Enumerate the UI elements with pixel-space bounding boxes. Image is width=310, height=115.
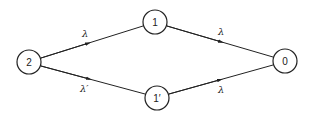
edge-label-1prime-0: λ	[217, 84, 224, 95]
node-label-1prime: 1′	[153, 93, 161, 104]
node-1prime: 1′	[145, 86, 169, 110]
diagram-canvas: λ λ′ λ λ 2 1 1′	[0, 0, 310, 115]
edge-label-2-1: λ	[81, 28, 88, 39]
node-label-1: 1	[152, 17, 158, 28]
edge-2-to-1: λ	[41, 26, 143, 58]
node-label-0: 0	[282, 56, 288, 67]
edge-1-to-0: λ	[167, 26, 273, 57]
node-0: 0	[273, 49, 297, 73]
graph-svg: λ λ′ λ λ 2 1 1′	[0, 0, 310, 115]
node-1: 1	[143, 10, 167, 34]
node-label-2: 2	[26, 57, 32, 68]
edge-label-1-0: λ	[217, 26, 224, 37]
edge-2-to-1prime: λ′	[41, 66, 145, 94]
node-2: 2	[17, 50, 41, 74]
edge-label-2-1prime: λ′	[79, 83, 89, 94]
edge-1prime-to-0: λ	[169, 65, 273, 95]
